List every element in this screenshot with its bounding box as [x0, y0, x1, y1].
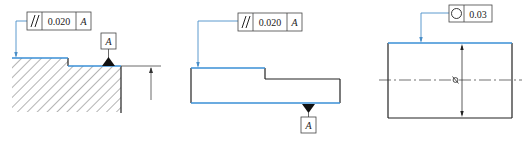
leader-line [196, 21, 238, 68]
arrow-down-icon [419, 37, 422, 43]
block-outline [191, 68, 340, 103]
datum-reference: A [79, 16, 87, 27]
datum-reference: A [290, 17, 298, 28]
arrow-down-icon [196, 62, 199, 68]
datum-label: A [304, 120, 312, 131]
tolerance-value: 0.020 [259, 17, 282, 28]
tolerance-value: 0.03 [469, 9, 487, 20]
datum-label: A [104, 36, 112, 47]
cylinder-outline [388, 43, 512, 118]
gdt-drawing-canvas: 0.020 A A [0, 0, 524, 142]
leader-line [14, 21, 27, 58]
tolerance-value: 0.020 [48, 16, 71, 27]
arrow-down-icon [14, 52, 17, 58]
arrow-up-icon [460, 44, 463, 50]
feature-control-frame: 0.020 A [27, 12, 91, 30]
arrow-up-icon [149, 67, 153, 73]
diameter-symbol-icon [453, 77, 459, 84]
datum-feature-symbol: A [301, 104, 316, 133]
diameter-dimension [453, 44, 464, 117]
figure-parallelism-hatched: 0.020 A A [12, 12, 161, 114]
arrow-down-icon [460, 111, 463, 117]
figure-circularity-cylinder: 0.03 [379, 5, 522, 118]
feature-control-frame: 0.03 [449, 5, 492, 22]
extension-line [121, 66, 161, 100]
feature-control-frame: 0.020 A [238, 13, 302, 31]
datum-triangle-icon [302, 104, 315, 113]
datum-feature-symbol: A [101, 33, 116, 66]
figure-parallelism-stepped-block: 0.020 A A [191, 13, 340, 133]
leader-line [419, 13, 449, 43]
datum-triangle-icon [102, 57, 115, 66]
